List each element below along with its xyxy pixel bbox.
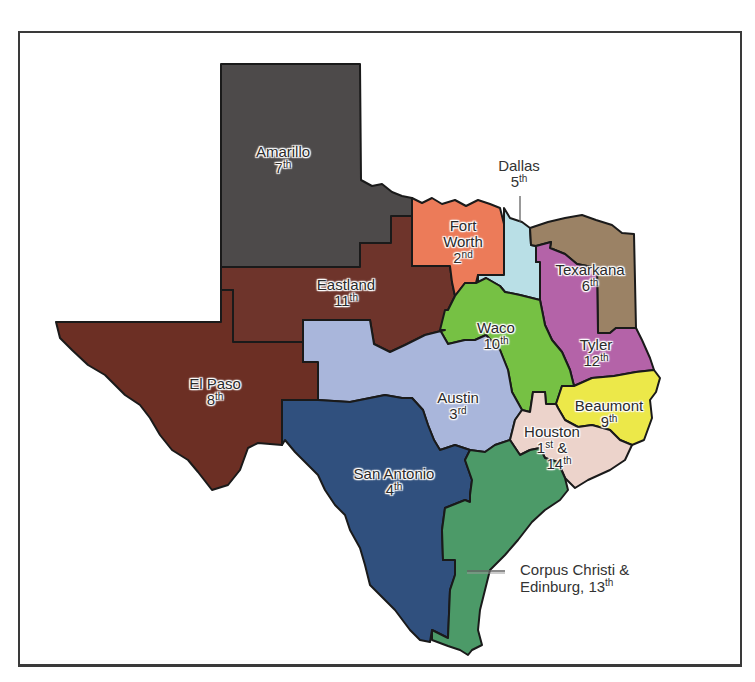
label-corpus-edinburg: Corpus Christi & Edinburg, 13th bbox=[520, 561, 629, 595]
label-waco: Waco 10th bbox=[477, 320, 515, 352]
label-austin: Austin 3rd bbox=[437, 390, 479, 422]
label-houston: Houston 1st & 14th bbox=[524, 424, 580, 472]
label-beaumont: Beaumont 9th bbox=[575, 398, 643, 430]
region-amarillo[interactable] bbox=[221, 64, 412, 267]
label-amarillo: Amarillo 7th bbox=[256, 144, 310, 176]
label-eastland: Eastland 11th bbox=[317, 277, 375, 309]
label-fortworth: Fort Worth 2nd bbox=[443, 218, 483, 266]
label-elpaso: El Paso 8th bbox=[189, 376, 241, 408]
label-tyler: Tyler 12th bbox=[580, 337, 613, 369]
label-texarkana: Texarkana 6th bbox=[555, 262, 624, 294]
label-dallas: Dallas 5th bbox=[498, 158, 540, 190]
label-sanantonio: San Antonio 4th bbox=[354, 466, 435, 498]
texas-map bbox=[0, 0, 755, 682]
